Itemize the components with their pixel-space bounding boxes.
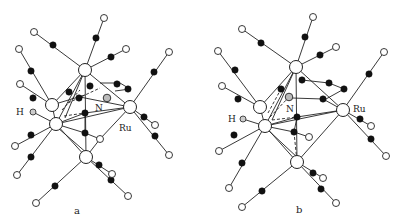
- ruthenium-label-b: Ru: [353, 104, 366, 114]
- hydrogen-atom-a: [30, 109, 36, 115]
- panel-b: H N Ru b: [215, 14, 390, 216]
- nitrogen-label-a: N: [95, 103, 103, 113]
- nitrogen-atom-b: [285, 93, 293, 101]
- nitrogen-label-b: N: [286, 104, 294, 114]
- panel-a: H N Ru a: [12, 15, 173, 217]
- hydride-label-a: H: [16, 107, 24, 117]
- carbonyl-ligands-a: [15, 18, 169, 203]
- ruthenium-atoms-a: [46, 64, 137, 164]
- panel-caption-a: a: [74, 205, 80, 216]
- nitrogen-atom-a: [103, 94, 111, 102]
- hydrogen-atom-b: [240, 116, 246, 122]
- ruthenium-label-a: Ru: [119, 123, 132, 133]
- molecular-structure-figure: H N Ru a: [0, 0, 400, 224]
- carbon-atoms-b: [231, 34, 374, 194]
- hydride-label-b: H: [228, 114, 236, 124]
- panel-caption-b: b: [296, 204, 302, 215]
